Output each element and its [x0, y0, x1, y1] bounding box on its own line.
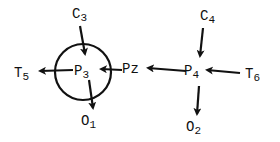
node-pz: Pz — [122, 62, 139, 80]
arrow-c3-p3 — [80, 26, 85, 54]
arrows-layer — [0, 0, 280, 142]
node-t5: T5 — [14, 66, 29, 84]
node-p4: P4 — [184, 64, 199, 82]
arrow-c4-p4 — [200, 28, 203, 56]
node-o1: O1 — [81, 114, 96, 132]
arrow-p4-o2 — [197, 86, 199, 114]
node-p3: P3 — [74, 64, 89, 82]
node-c4: C4 — [200, 9, 215, 27]
node-o2: O2 — [186, 120, 201, 138]
node-c3: C3 — [72, 7, 87, 25]
arrow-p3-o1 — [89, 80, 93, 108]
arrow-pz-p3 — [101, 69, 122, 70]
arrow-p3-t5 — [40, 70, 73, 71]
arrow-t6-p4 — [207, 70, 240, 73]
electrode-diagram: C3 T5 P3 O1 Pz C4 P4 T6 O2 — [0, 0, 280, 142]
arrow-p4-pz — [148, 68, 186, 71]
node-t6: T6 — [245, 67, 260, 85]
